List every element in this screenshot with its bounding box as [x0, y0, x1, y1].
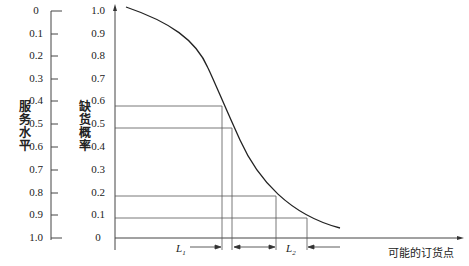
y-tick-label: 0.4	[88, 141, 108, 152]
left-tick-label: 0.8	[26, 187, 46, 198]
L1-label: L1	[176, 242, 186, 257]
y-tick-label: 1.0	[88, 5, 108, 16]
L2-label: L2	[286, 242, 296, 257]
left-tick-label: 0.4	[26, 95, 46, 106]
y-tick-label: 0.3	[88, 164, 108, 175]
chart-svg	[0, 0, 469, 266]
left-tick-label: 0.6	[26, 141, 46, 152]
y-tick-label: 0.5	[88, 118, 108, 129]
left-tick-label: 1.0	[26, 232, 46, 243]
left-tick-label: 0.2	[26, 50, 46, 61]
y-tick-label: 0.1	[88, 209, 108, 220]
y-tick-label: 0.2	[88, 187, 108, 198]
left-tick-label: 0.3	[26, 73, 46, 84]
y-tick-label: 0.8	[88, 50, 108, 61]
left-tick-label: 0	[26, 5, 46, 16]
left-tick-label: 0.7	[26, 164, 46, 175]
left-tick-label: 0.5	[26, 118, 46, 129]
y-tick-label: 0.9	[88, 28, 108, 39]
y-tick-label: 0	[88, 232, 108, 243]
left-tick-label: 0.9	[26, 209, 46, 220]
y-tick-label: 0.6	[88, 95, 108, 106]
x-axis-label: 可能的订货点	[388, 244, 454, 260]
y-tick-label: 0.7	[88, 73, 108, 84]
left-tick-label: 0.1	[26, 28, 46, 39]
left-axis-ticks	[51, 11, 62, 238]
